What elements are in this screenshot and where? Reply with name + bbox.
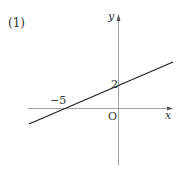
- y-intercept-label: 2: [111, 79, 118, 91]
- y-axis-arrow-icon: [117, 14, 121, 21]
- coordinate-graph: [0, 0, 187, 170]
- x-axis-label: x: [165, 110, 171, 122]
- graph-line: [29, 62, 173, 124]
- y-axis-label: y: [108, 11, 114, 23]
- x-intercept-label: −5: [50, 95, 66, 107]
- origin-label: O: [108, 111, 117, 123]
